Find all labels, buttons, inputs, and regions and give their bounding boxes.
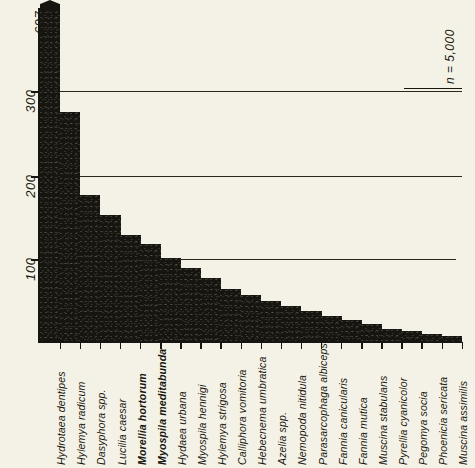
x-tick-mark: [301, 342, 302, 349]
bar: [421, 334, 442, 341]
x-axis-category-label: Hebecnema umbratica: [256, 357, 268, 465]
bar: [401, 331, 422, 341]
bar-chart-figure: 300 200 100 697 n = 5,000 Hydrotaea dent…: [0, 0, 475, 468]
x-tick-mark: [281, 342, 282, 349]
sample-size-rule: [404, 88, 462, 89]
x-axis-category-label: Phoenicia sericata: [437, 377, 449, 465]
x-axis-category-label: Hydaea urbana: [176, 391, 188, 465]
x-axis-category-label: Fannia canicularis: [337, 378, 349, 465]
x-axis-category-label: Myospila hennigi: [196, 384, 208, 465]
bar: [301, 311, 322, 341]
x-axis-category-label: Azelia spp.: [276, 412, 288, 465]
x-axis-category-label: Fannia mutica: [357, 397, 369, 465]
x-tick-mark: [401, 342, 402, 349]
bar: [241, 295, 262, 341]
x-tick-mark: [60, 342, 61, 349]
gridline-200: [38, 176, 462, 177]
bar: [100, 215, 121, 341]
x-axis-category-label: Parasarcophaga albiceps: [317, 343, 329, 465]
y-axis-tick-label-300-text: 300: [23, 90, 38, 113]
gridline-300: [38, 91, 462, 92]
bar: [281, 306, 302, 341]
bar: [341, 320, 362, 341]
x-axis-category-label: Pyrellia cyanicolor: [397, 378, 409, 465]
x-tick-mark: [261, 342, 262, 349]
x-axis-category-label: Hydrotaea dentipes: [55, 371, 67, 465]
x-axis-category-label: Pegomya socia: [417, 391, 429, 465]
bar: [261, 301, 282, 341]
bar: [120, 235, 141, 341]
bar: [80, 195, 101, 341]
x-tick-mark: [241, 342, 242, 349]
bar-value-annotation-697: 697: [32, 11, 47, 34]
x-tick-mark: [120, 342, 121, 349]
bar: [220, 289, 241, 341]
bar: [441, 336, 462, 341]
x-axis-category-label: Muscina assimilis: [457, 381, 469, 465]
x-tick-mark: [220, 342, 221, 349]
x-tick-mark: [100, 342, 101, 349]
x-axis-category-label: Myospila meditabunda: [156, 349, 168, 465]
x-axis-category-label: Lucilia caesar: [116, 399, 128, 465]
x-axis-category-label: Muscina stabulans: [377, 376, 389, 465]
x-tick-mark: [200, 342, 201, 349]
x-tick-mark: [361, 342, 362, 349]
sample-size-annotation: n = 5,000: [443, 29, 457, 84]
x-axis-category-label: Calliphora vomitoria: [236, 369, 248, 465]
x-axis-line: [38, 341, 462, 343]
x-tick-mark: [381, 342, 382, 349]
x-axis-category-label: Morellia hortorum: [136, 373, 148, 465]
y-axis-tick-label-200-text: 200: [23, 175, 38, 198]
bar: [381, 329, 402, 341]
y-axis-tick-label-100-text: 100: [23, 258, 38, 281]
bar: [200, 278, 221, 341]
bar: [160, 258, 181, 341]
x-tick-mark: [442, 342, 443, 349]
x-tick-mark: [180, 342, 181, 349]
bar: [140, 244, 161, 341]
x-axis-category-label: Nemopoda nitidula: [296, 375, 308, 465]
x-tick-mark: [462, 342, 463, 349]
x-axis-category-labels: Hydrotaea dentipesHylemya radicumDasypho…: [0, 349, 475, 468]
x-tick-mark: [80, 342, 81, 349]
x-tick-mark: [421, 342, 422, 349]
x-axis-category-label: Hylemya strigosa: [216, 382, 228, 465]
bar: [321, 316, 342, 341]
x-axis-category-label: Dasyphora spp.: [95, 389, 107, 465]
x-tick-mark: [341, 342, 342, 349]
bar: [60, 112, 81, 341]
x-tick-mark: [140, 342, 141, 349]
bar: [40, 11, 61, 341]
bar: [361, 324, 382, 341]
x-axis-category-label: Hylemya radicum: [75, 382, 87, 465]
bar: [180, 268, 201, 341]
